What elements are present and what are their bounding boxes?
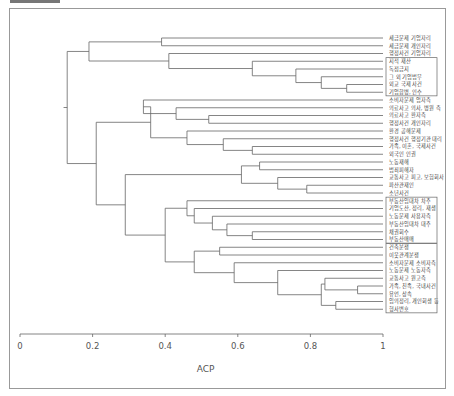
leaf-label: 가족, 이혼, 국제사건: [389, 142, 436, 150]
leaf-label: 채권회수: [389, 228, 409, 236]
x-tick-label: 1: [380, 341, 385, 351]
leaf-label: 행정사건 기업자리: [389, 49, 431, 57]
leaf-label: 행정사건 개인자리: [389, 119, 431, 127]
x-axis-title: ACP: [197, 364, 215, 374]
leaf-label: 임의정리, 개인회생 등: [389, 297, 439, 305]
leaf-label: 지적 재산: [389, 57, 411, 65]
leaf-label: 기업도산, 정리, 재생: [389, 204, 436, 212]
leaf-label: 교통사고 피고, 보험회사: [389, 173, 444, 181]
leaf-label: 부동산임대차 차주: [389, 197, 431, 205]
leaf-label: 그 외 기업법무: [389, 73, 422, 81]
leaf-label: 소년사건: [389, 189, 409, 197]
x-tick-label: 0.6: [231, 341, 245, 351]
leaf-label: 행정사건 행정기관 대리: [389, 135, 442, 143]
leaf-label: 형사변호: [389, 305, 409, 313]
leaf-label: 의료사고 의사, 병원 측: [389, 104, 441, 112]
leaf-label: 소비자문제 업자측: [389, 96, 431, 104]
leaf-label: 환경 공해문제: [389, 127, 421, 135]
leaf-label: 노동재해: [389, 158, 409, 166]
leaf-label: 건축분쟁: [389, 243, 409, 251]
x-tick-label: 0: [17, 341, 22, 351]
dendrogram-chart: 세금문제 기업자리세금문제 개인자리행정사건 기업자리지적 재산독점금지그 외 …: [0, 0, 454, 396]
leaf-label: 외교 국제 사건: [389, 80, 422, 88]
x-tick-label: 0.4: [158, 341, 172, 351]
leaf-label: 소비자문제 소비자측: [389, 259, 436, 267]
leaf-label: 교통사고 원고측: [389, 274, 426, 282]
leaf-label: 독점금지: [389, 65, 409, 73]
leaf-label: 가족, 친족, 국내사건: [389, 282, 436, 290]
leaf-label: 파산관재인: [389, 181, 414, 189]
x-tick-label: 0.8: [304, 341, 318, 351]
leaf-label: 범죄피해자: [389, 166, 414, 174]
leaf-label: 부동산매매: [389, 235, 414, 243]
leaf-label: 노동문제 사용자측: [389, 212, 431, 220]
leaf-label: 외국인 인권: [389, 150, 416, 158]
leaf-label: 노동문제 노동자측: [389, 266, 431, 274]
leaf-label: 세금문제 기업자리: [389, 34, 431, 42]
x-tick-label: 0.2: [86, 341, 100, 351]
leaf-label: 부동산임대차 대주: [389, 220, 431, 228]
leaf-label: 세금문제 개인자리: [389, 42, 431, 50]
leaf-label: 이웃관계분쟁: [389, 251, 419, 259]
leaf-label: 기업합병, 인수: [389, 88, 422, 96]
leaf-label: 유언, 상속: [389, 290, 412, 298]
leaf-label: 의료사고 환자측: [389, 111, 426, 119]
